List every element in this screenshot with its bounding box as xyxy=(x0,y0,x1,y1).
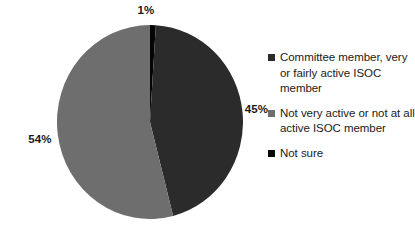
pie-graphic xyxy=(57,25,243,219)
pie-svg xyxy=(57,25,243,219)
legend-item-not-active[interactable]: Not very active or not at all active ISO… xyxy=(268,106,415,137)
data-label-not-active: 54% xyxy=(22,133,58,145)
legend-item-committee[interactable]: Committee member, very or fairly active … xyxy=(268,50,415,97)
data-label-not-sure: 1% xyxy=(131,4,161,16)
legend-label-committee: Committee member, very or fairly active … xyxy=(280,50,415,97)
legend-label-not-active: Not very active or not at all active ISO… xyxy=(280,106,415,137)
legend-swatch-icon-committee xyxy=(268,54,275,61)
legend-swatch-icon-not-active xyxy=(268,110,275,117)
legend-swatch-icon-not-sure xyxy=(268,150,275,157)
chart-legend: Committee member, very or fairly active … xyxy=(268,50,415,170)
pie-chart: 1% 54% 45% Committee member, very or fai… xyxy=(0,0,415,236)
legend-label-not-sure: Not sure xyxy=(280,146,323,162)
data-label-committee: 45% xyxy=(236,103,268,115)
legend-item-not-sure[interactable]: Not sure xyxy=(268,146,415,162)
